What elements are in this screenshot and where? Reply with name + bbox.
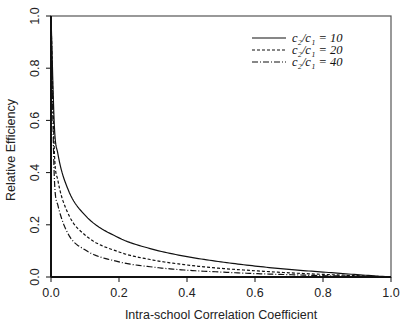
x-tick-label: 0.4 <box>178 286 195 300</box>
legend-label: c₂/c₁ = 40 <box>292 56 342 68</box>
legend-dashed-line-icon <box>252 48 286 52</box>
y-axis-label-text: Relative Efficiency <box>4 99 18 201</box>
legend-solid-line-icon <box>252 36 286 40</box>
legend-dashdot-line-icon <box>252 60 286 64</box>
y-tick-label: 0.6 <box>28 112 42 129</box>
x-tick-label: 1.0 <box>382 286 399 300</box>
x-tick-label: 0.6 <box>246 286 263 300</box>
y-tick-label: 0.8 <box>28 59 42 76</box>
y-tick-label: 0.4 <box>28 164 42 181</box>
x-tick-label: 0.8 <box>314 286 331 300</box>
y-ticks: 0.00.20.40.60.81.0 <box>28 7 51 285</box>
legend-item-40: c₂/c₁ = 40 <box>252 56 342 68</box>
y-axis-label: Relative Efficiency <box>4 60 18 240</box>
legend: c₂/c₁ = 10 c₂/c₁ = 20 c₂/c₁ = 40 <box>252 32 342 68</box>
y-tick-label: 0.2 <box>28 216 42 233</box>
chart-canvas: 0.00.20.40.60.81.0 0.00.20.40.60.81.0 <box>0 0 408 330</box>
x-tick-label: 0.2 <box>110 286 127 300</box>
x-ticks: 0.00.20.40.60.81.0 <box>42 277 399 300</box>
x-tick-label: 0.0 <box>42 286 59 300</box>
y-tick-label: 0.0 <box>28 268 42 285</box>
y-tick-label: 1.0 <box>28 7 42 24</box>
x-axis-label: Intra-school Correlation Coefficient <box>51 308 391 322</box>
